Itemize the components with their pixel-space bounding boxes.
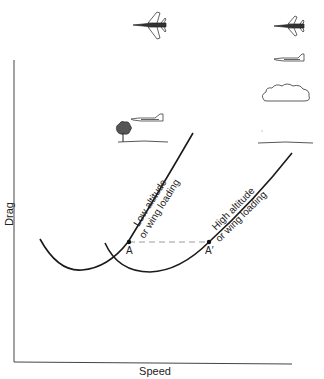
cloud-icon [262, 84, 309, 101]
y-axis-label: Drag [3, 199, 15, 229]
fighter-jet-top-view-icon [133, 12, 166, 39]
ground-line-low [118, 141, 168, 142]
low-altitude-curve [40, 133, 193, 270]
jet-side-view-low-icon [131, 114, 163, 121]
point-a-label: A [126, 245, 133, 256]
point-a [127, 240, 131, 244]
bird-dot [261, 130, 262, 131]
high-altitude-curve [105, 153, 292, 272]
jet-side-view-high-icon [274, 54, 304, 61]
x-axis [14, 362, 292, 364]
x-axis-label: Speed [130, 365, 180, 377]
tree-icon [116, 121, 131, 142]
point-a-prime-label: A′ [205, 245, 214, 256]
fighter-jet-top-view-small-icon [274, 16, 304, 36]
point-a-prime [207, 240, 211, 244]
ground-line-high [258, 142, 313, 143]
